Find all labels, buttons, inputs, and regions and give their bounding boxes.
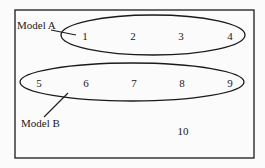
item-9: 9 <box>227 77 233 89</box>
venn-diagram: Model A Model B 1 2 3 4 5 6 7 8 9 10 <box>0 0 265 168</box>
item-1: 1 <box>82 30 88 42</box>
items: 1 2 3 4 5 6 7 8 9 10 <box>36 30 233 137</box>
model-a-ellipse <box>61 15 245 55</box>
item-6: 6 <box>83 77 89 89</box>
model-b-group: Model B <box>20 63 244 129</box>
item-5: 5 <box>36 77 42 89</box>
item-10: 10 <box>178 125 190 137</box>
item-2: 2 <box>130 30 136 42</box>
model-b-label: Model B <box>21 117 60 129</box>
item-7: 7 <box>131 77 137 89</box>
model-a-label: Model A <box>17 19 56 31</box>
item-3: 3 <box>178 30 184 42</box>
item-8: 8 <box>179 77 185 89</box>
item-4: 4 <box>227 30 233 42</box>
